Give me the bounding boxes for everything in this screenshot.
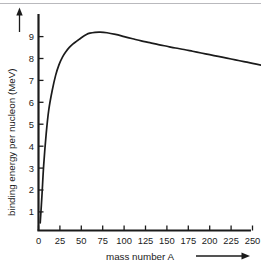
y-tick-label: 3 — [29, 163, 34, 174]
y-tick-label: 9 — [29, 31, 34, 42]
x-tick-label: 200 — [202, 235, 218, 246]
binding-energy-curve — [40, 32, 261, 223]
y-axis-tick-labels: 1 2 3 4 5 6 7 8 9 — [29, 31, 34, 217]
x-tick-label: 100 — [116, 235, 132, 246]
x-tick-label: 50 — [76, 235, 86, 246]
y-tick-label: 8 — [29, 53, 34, 64]
x-tick-label: 225 — [223, 235, 239, 246]
y-tick-label: 6 — [29, 97, 34, 108]
x-tick-label: 250 — [245, 235, 261, 246]
x-tick-label: 25 — [55, 235, 65, 246]
x-tick-label: 75 — [97, 235, 107, 246]
x-axis-arrow — [196, 253, 250, 260]
binding-energy-chart: 1 2 3 4 5 6 7 8 9 binding energy per nuc… — [0, 0, 261, 269]
x-axis-title: mass number A — [106, 251, 175, 262]
y-axis-arrow — [16, 8, 22, 33]
x-tick-label: 0 — [36, 235, 41, 246]
y-axis-title: binding energy per nucleon (MeV) — [6, 68, 17, 216]
y-tick-label: 5 — [29, 119, 34, 130]
y-tick-label: 2 — [29, 184, 34, 195]
x-tick-label: 150 — [159, 235, 175, 246]
y-tick-label: 7 — [29, 75, 34, 86]
x-axis-tick-labels: 0 25 50 75 100 125 150 175 200 225 250 — [36, 235, 260, 246]
x-tick-label: 175 — [180, 235, 196, 246]
chart-canvas: 1 2 3 4 5 6 7 8 9 binding energy per nuc… — [0, 0, 261, 269]
y-tick-label: 1 — [29, 206, 34, 217]
x-tick-label: 125 — [138, 235, 154, 246]
y-tick-label: 4 — [29, 141, 34, 152]
